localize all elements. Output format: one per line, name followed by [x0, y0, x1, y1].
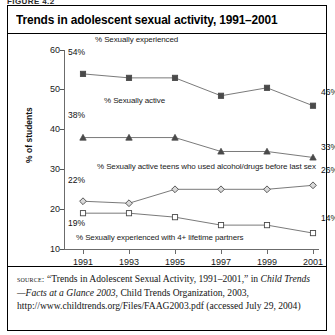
source-divider [8, 266, 326, 267]
source-text-part1: “Trends in Adolescent Sexual Activity, 1… [45, 273, 261, 284]
series-label-sexually-active: % Sexually active [104, 96, 165, 105]
figure-number-header: FIGURE 4.2 [7, 0, 55, 4]
plot-area: % of students 60 50 40 30 20 10 1991 199… [8, 34, 326, 266]
value-label-alcohol-end: 26% [321, 165, 335, 175]
source-note: source: “Trends in Adolescent Sexual Act… [17, 272, 317, 313]
value-label-partners-end: 14% [321, 213, 335, 223]
value-label-partners-start: 19% [68, 218, 85, 228]
value-label-experienced-start: 54% [68, 47, 85, 57]
series-layer [8, 34, 326, 266]
value-label-active-start: 38% [68, 110, 85, 120]
figure-frame: Trends in adolescent sexual activity, 19… [7, 5, 327, 331]
figure-page: FIGURE 4.2 Trends in adolescent sexual a… [0, 0, 335, 335]
chart-title: Trends in adolescent sexual activity, 19… [16, 13, 277, 27]
series-label-sexually-experienced: % Sexually experienced [95, 35, 178, 44]
value-label-active-end: 33% [321, 142, 335, 152]
series-four-plus-lifetime-partners [80, 211, 315, 236]
series-sexually-active [80, 134, 316, 160]
series-alcohol-drugs-before-last-sex [80, 182, 317, 207]
series-label-alcohol-drugs: % Sexually active teens who used alcohol… [97, 162, 316, 171]
series-label-four-plus-partners: % Sexually experienced with 4+ lifetime … [76, 233, 244, 242]
value-label-alcohol-start: 22% [68, 175, 85, 185]
source-label: source: [17, 274, 45, 284]
value-label-experienced-end: 46% [321, 87, 335, 97]
